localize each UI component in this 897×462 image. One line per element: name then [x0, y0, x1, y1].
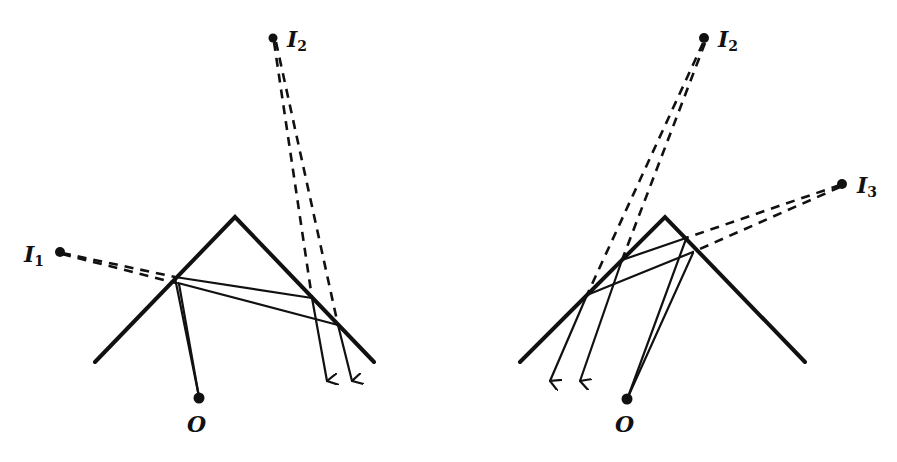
right-I2-dot: [699, 33, 709, 43]
left-I1-dot: [55, 247, 65, 257]
right-prism: [520, 217, 805, 362]
left-panel: I1 I2 O: [23, 26, 374, 437]
right-I3-label: I3: [856, 172, 877, 200]
left-prism: [95, 217, 374, 362]
right-arrow-1: [550, 295, 587, 381]
right-I2-dashed-rays: [587, 43, 705, 295]
right-I3-dashed-rays: [686, 185, 840, 252]
left-O-dot: [194, 393, 205, 404]
left-rays-to-O: [175, 278, 199, 397]
left-outgoing-arrows: [312, 298, 352, 381]
right-arrow-2: [580, 260, 622, 381]
left-I1-dashed-rays: [62, 253, 176, 283]
right-I3-dot: [837, 179, 847, 189]
right-O-dot: [622, 394, 633, 405]
left-I2-dot: [269, 34, 278, 43]
prism-ray-diagram: I1 I2 O: [0, 0, 897, 462]
left-I2-dashed-rays: [274, 42, 338, 325]
right-rays-to-O: [628, 239, 693, 397]
left-I2-label: I2: [286, 26, 307, 54]
right-panel: I2 I3 O: [520, 26, 877, 437]
left-I1-label: I1: [23, 241, 44, 269]
right-I2-label: I2: [717, 26, 738, 54]
right-O-label: O: [615, 411, 634, 437]
left-O-label: O: [187, 411, 206, 437]
